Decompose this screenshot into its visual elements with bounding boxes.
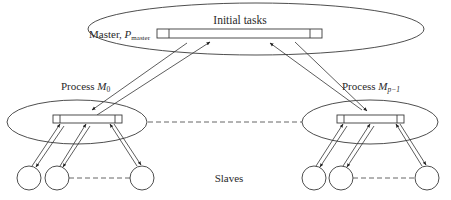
- master-node: Initial tasks Master, Pmaster: [88, 3, 424, 55]
- right-slave-arrows: [316, 124, 426, 167]
- slave-node: [302, 166, 326, 190]
- slave-node: [17, 166, 41, 190]
- process-mp-1-task-queue: [337, 115, 404, 123]
- slave-node: [45, 166, 69, 190]
- process-m0-node: Process M0: [7, 80, 147, 144]
- left-slave-arrows: [32, 124, 141, 167]
- slave-node: [415, 166, 439, 190]
- master-slave-diagram: Initial tasks Master, Pmaster Process M0: [0, 0, 451, 200]
- initial-tasks-label: Initial tasks: [213, 14, 267, 26]
- slave-node: [329, 166, 353, 190]
- process-mp-1-node: Process Mp−1: [302, 80, 438, 144]
- master-task-queue: [157, 29, 322, 38]
- process-m0-label: Process M0: [61, 80, 111, 94]
- right-slaves: [302, 166, 439, 190]
- process-mp-1-label: Process Mp−1: [342, 80, 400, 94]
- slave-node: [130, 166, 154, 190]
- process-m0-task-queue: [53, 115, 122, 123]
- slaves-label: Slaves: [215, 172, 244, 184]
- master-label: Master, Pmaster: [89, 28, 151, 42]
- left-slaves: [17, 166, 154, 190]
